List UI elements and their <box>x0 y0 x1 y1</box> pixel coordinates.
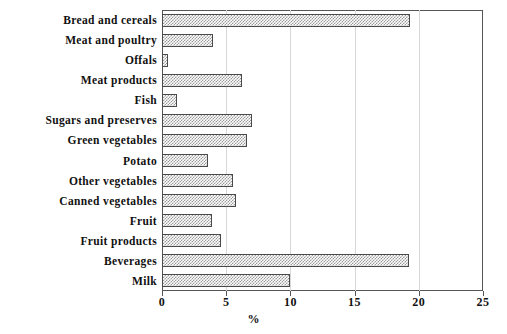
bar <box>162 14 410 27</box>
category-label: Green vegetables <box>68 130 157 150</box>
bar-row: Other vegetables <box>0 171 507 191</box>
x-tick-label: 20 <box>399 295 439 310</box>
bar <box>162 254 409 267</box>
x-tick-label: 15 <box>335 295 375 310</box>
category-label: Fish <box>135 90 158 110</box>
bar <box>162 134 247 147</box>
bar <box>162 74 242 87</box>
bar-row: Bread and cereals <box>0 10 507 30</box>
bar <box>162 274 290 287</box>
bar <box>162 94 177 107</box>
bar <box>162 114 252 127</box>
bar-row: Offals <box>0 50 507 70</box>
category-label: Other vegetables <box>69 171 157 191</box>
bar-row: Milk <box>0 271 507 291</box>
bar-row: Green vegetables <box>0 130 507 150</box>
category-label: Potato <box>123 151 157 171</box>
bar-row: Potato <box>0 151 507 171</box>
bar-row: Meat and poultry <box>0 30 507 50</box>
chart-page: Bread and cerealsMeat and poultryOffalsM… <box>0 0 507 334</box>
category-label: Fruit <box>130 211 157 231</box>
bar-row: Fish <box>0 90 507 110</box>
x-axis-title: % <box>0 312 507 327</box>
x-tick-label: 0 <box>142 295 182 310</box>
bar <box>162 194 236 207</box>
bar-row: Canned vegetables <box>0 191 507 211</box>
bar <box>162 34 213 47</box>
category-label: Fruit products <box>80 231 157 251</box>
bar <box>162 174 233 187</box>
category-label: Beverages <box>104 251 157 271</box>
bar-row: Meat products <box>0 70 507 90</box>
category-label: Bread and cereals <box>63 10 157 30</box>
category-label: Milk <box>132 271 157 291</box>
category-label: Meat products <box>81 70 157 90</box>
x-tick-label: 5 <box>206 295 246 310</box>
bar-row: Beverages <box>0 251 507 271</box>
bar-row: Fruit products <box>0 231 507 251</box>
bar <box>162 234 221 247</box>
bar <box>162 54 168 67</box>
x-tick-label: 10 <box>270 295 310 310</box>
x-tick-label: 25 <box>463 295 503 310</box>
category-label: Meat and poultry <box>65 30 157 50</box>
category-label: Canned vegetables <box>59 191 157 211</box>
bar-row: Fruit <box>0 211 507 231</box>
bar <box>162 154 208 167</box>
category-label: Offals <box>125 50 157 70</box>
bar-row: Sugars and preserves <box>0 110 507 130</box>
category-label: Sugars and preserves <box>45 110 157 130</box>
bar-rows: Bread and cerealsMeat and poultryOffalsM… <box>0 10 507 291</box>
bar <box>162 214 212 227</box>
